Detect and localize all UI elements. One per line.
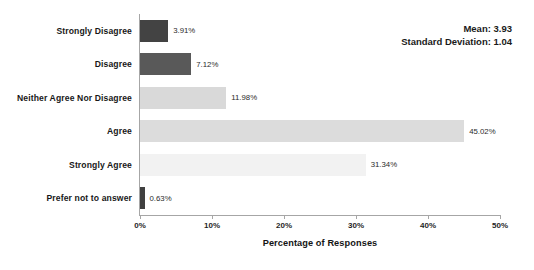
- category-label: Neither Agree Nor Disagree: [0, 93, 132, 103]
- tick-mark: [140, 215, 141, 219]
- category-label: Disagree: [0, 59, 132, 69]
- bar-container: 11.98%: [140, 87, 257, 109]
- x-axis-ticks: 0%10%20%30%40%50%: [0, 215, 534, 235]
- bar-value-label: 45.02%: [469, 127, 495, 136]
- tick-label: 20%: [276, 221, 292, 230]
- bar-value-label: 11.98%: [231, 93, 257, 102]
- category-label: Strongly Disagree: [0, 26, 132, 36]
- bar-row: Disagree7.12%: [0, 48, 534, 82]
- tick-label: 0%: [134, 221, 146, 230]
- bar-container: 45.02%: [140, 120, 496, 142]
- tick-mark: [428, 215, 429, 219]
- tick-label: 40%: [420, 221, 436, 230]
- bar-container: 31.34%: [140, 154, 397, 176]
- bar-value-label: 31.34%: [371, 160, 397, 169]
- tick-label: 50%: [492, 221, 508, 230]
- bar-segment: [140, 154, 366, 176]
- bar-value-label: 7.12%: [196, 60, 218, 69]
- bar-value-label: 3.91%: [173, 26, 195, 35]
- bar-segment: [140, 187, 145, 209]
- bar-segment: [140, 87, 226, 109]
- tick-mark: [500, 215, 501, 219]
- bar-row: Strongly Disagree3.91%: [0, 14, 534, 48]
- tick-mark: [212, 215, 213, 219]
- bar-container: 3.91%: [140, 20, 195, 42]
- bar-segment: [140, 20, 168, 42]
- bar-rows: Strongly Disagree3.91%Disagree7.12%Neith…: [0, 14, 534, 215]
- tick-mark: [284, 215, 285, 219]
- x-axis-title: Percentage of Responses: [139, 238, 501, 248]
- bar-row: Agree45.02%: [0, 115, 534, 149]
- bar-segment: [140, 53, 191, 75]
- category-label: Strongly Agree: [0, 160, 132, 170]
- bar-row: Prefer not to answer0.63%: [0, 182, 534, 216]
- category-label: Prefer not to answer: [0, 193, 132, 203]
- tick-label: 30%: [348, 221, 364, 230]
- category-label: Agree: [0, 126, 132, 136]
- plot-area: Strongly Disagree3.91%Disagree7.12%Neith…: [0, 0, 534, 270]
- tick-mark: [356, 215, 357, 219]
- bar-row: Neither Agree Nor Disagree11.98%: [0, 81, 534, 115]
- bar-segment: [140, 120, 464, 142]
- bar-container: 7.12%: [140, 53, 218, 75]
- bar-row: Strongly Agree31.34%: [0, 148, 534, 182]
- bar-chart: Mean: 3.93 Standard Deviation: 1.04 Stro…: [0, 0, 534, 270]
- tick-label: 10%: [204, 221, 220, 230]
- bar-container: 0.63%: [140, 187, 172, 209]
- bar-value-label: 0.63%: [150, 194, 172, 203]
